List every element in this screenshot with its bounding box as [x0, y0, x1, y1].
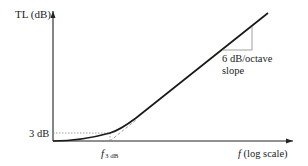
y-axis-label: TL (dB) — [15, 8, 51, 21]
tl-curve — [53, 13, 268, 141]
f3db-label-sub: 3 dB — [105, 152, 119, 160]
level-3db-label: 3 dB — [29, 128, 49, 139]
x-axis-label: f (log scale) — [238, 148, 288, 160]
x-axis-label-rest: (log scale) — [241, 148, 288, 160]
slope-label-line2: slope — [222, 65, 245, 76]
asymptote-line — [110, 120, 136, 141]
f3db-label: f3 dB — [101, 147, 119, 160]
slope-label-line1: 6 dB/octave — [222, 53, 273, 64]
slope-triangle — [223, 27, 252, 50]
tl-diagram: TL (dB) 3 dB f3 dB 6 dB/octave slope f (… — [0, 0, 308, 166]
